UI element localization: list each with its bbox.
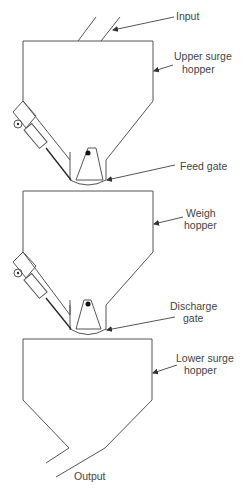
discharge-gate (70, 300, 106, 335)
lower-surge-hopper (23, 339, 152, 477)
label-upper-surge-2: hopper (182, 63, 215, 75)
label-weigh-2: hopper (184, 219, 217, 231)
upper-surge-hopper (23, 41, 153, 180)
weigh-hopper (23, 191, 153, 330)
label-weigh-1: Weigh (186, 207, 216, 219)
feed-gate-actuator (13, 101, 71, 180)
label-discharge-2: gate (183, 312, 204, 324)
label-input: Input (176, 10, 199, 22)
label-feed-gate: Feed gate (180, 160, 227, 172)
feed-gate (70, 148, 106, 185)
discharge-gate-actuator (13, 252, 71, 329)
hopper-diagram: Input Upper surge hopper Feed gate Weigh… (0, 0, 243, 494)
input-chute (78, 17, 120, 41)
label-discharge-1: Discharge (170, 300, 217, 312)
label-lower-surge-2: hopper (184, 364, 217, 376)
label-output: Output (74, 470, 106, 482)
leader-lines (107, 17, 183, 373)
label-lower-surge-1: Lower surge (176, 352, 234, 364)
label-upper-surge-1: Upper surge (174, 50, 232, 62)
